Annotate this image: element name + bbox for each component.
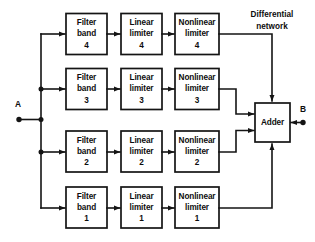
linear-limiter-1-box[interactable]: [121, 187, 162, 228]
filter-band-2-box[interactable]: [66, 131, 107, 172]
bus-junction-input: [39, 117, 44, 122]
bus-junction-row2: [39, 150, 44, 155]
wire-nonlinear2-to-adder: [219, 131, 254, 153]
diagram-vector-layer: [0, 0, 315, 242]
wire-nonlinear4-to-adder: [219, 34, 272, 101]
block-diagram-canvas: Filter band 4 Linear limiter 4 Nonlinear…: [0, 0, 315, 242]
adder-box[interactable]: [255, 103, 290, 142]
nonlinear-limiter-2-box[interactable]: [175, 131, 219, 172]
filter-band-4-box[interactable]: [66, 14, 107, 55]
filter-band-1-box[interactable]: [66, 187, 107, 228]
linear-limiter-2-box[interactable]: [121, 131, 162, 172]
nonlinear-limiter-4-box[interactable]: [175, 14, 219, 55]
wire-nonlinear3-to-adder: [219, 89, 254, 114]
output-terminal-label: B: [300, 104, 306, 114]
filter-band-3-box[interactable]: [66, 69, 107, 110]
differential-network-annotation: Differential network: [232, 9, 312, 33]
output-terminal-dot: [300, 120, 305, 125]
linear-limiter-4-box[interactable]: [121, 14, 162, 55]
nonlinear-limiter-1-box[interactable]: [175, 187, 219, 228]
linear-limiter-3-box[interactable]: [121, 69, 162, 110]
nonlinear-limiter-3-box[interactable]: [175, 69, 219, 110]
bus-junction-row3: [39, 87, 44, 92]
input-terminal-label: A: [15, 99, 21, 109]
input-terminal-dot: [16, 117, 21, 122]
wire-nonlinear1-to-adder: [219, 144, 272, 208]
